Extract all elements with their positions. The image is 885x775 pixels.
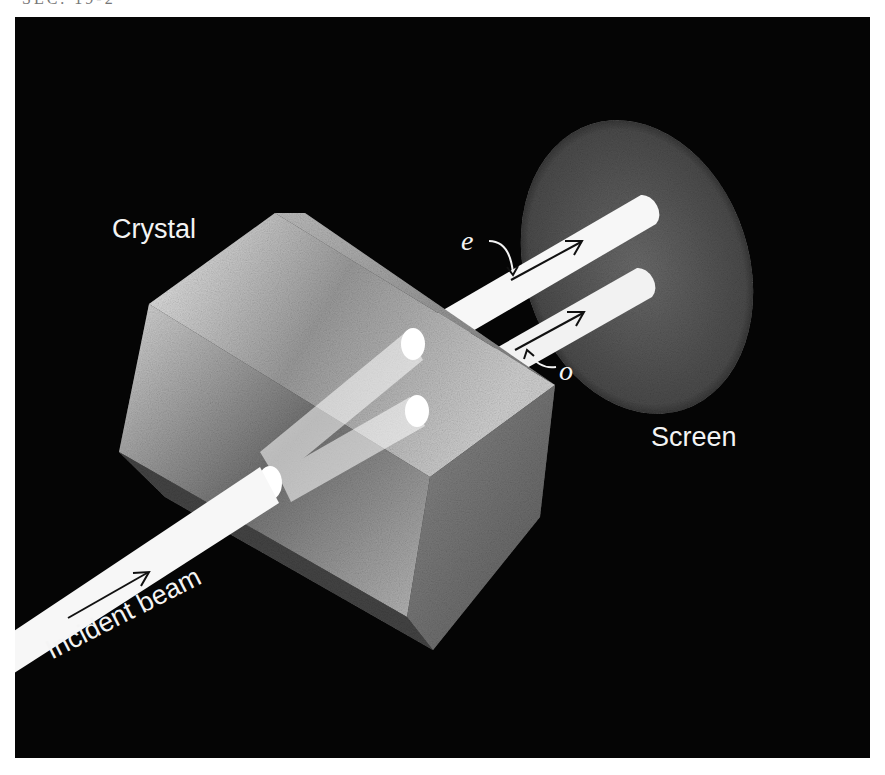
screen-label: Screen: [651, 422, 737, 453]
ordinary-ray-label: o: [559, 355, 573, 387]
extraordinary-ray-label: e: [461, 225, 473, 257]
crystal-label: Crystal: [112, 214, 196, 245]
page-header-fragment: SEC. 19-2: [22, 0, 116, 8]
birefringence-figure: Crystal Screen Incident beam e o: [15, 17, 870, 758]
figure-illustration: [15, 17, 870, 758]
